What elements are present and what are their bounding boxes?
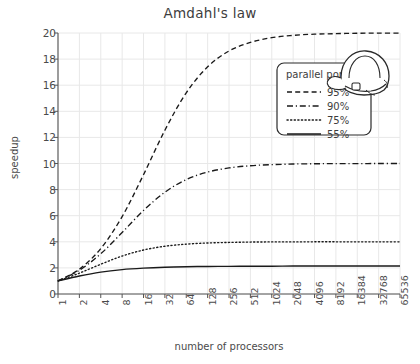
- amdahls-law-figure: Amdahl's law speedup number of processor…: [0, 0, 420, 364]
- legend-label: 75%: [327, 115, 349, 126]
- legend-label: 90%: [327, 101, 349, 112]
- chart-canvas: parallel portion95%90%75%55%: [0, 0, 420, 364]
- legend-label: 55%: [327, 129, 349, 140]
